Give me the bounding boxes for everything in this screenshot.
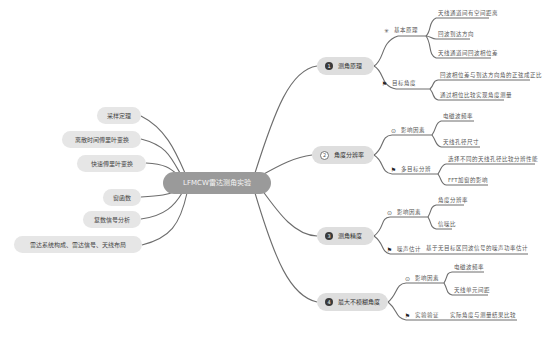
- subtopic-label: 影响因素: [397, 208, 421, 216]
- asterisk-icon: ✳: [383, 27, 390, 34]
- leaf-item[interactable]: 实际角度与测量结果比较: [450, 311, 516, 320]
- leaf-item[interactable]: 信噪比: [438, 220, 456, 229]
- flag-icon: ⚑: [381, 80, 388, 87]
- mind-map-canvas: LFMCW雷达测角实验 采样定理 离散时间傅里叶变换 快速傅里叶变换 窗函数 复…: [0, 0, 545, 337]
- info-circle-icon: ⊙: [390, 127, 397, 134]
- subtopic-label: 多目标分辨: [401, 165, 431, 173]
- subtopic-label: 目标角度: [392, 79, 416, 87]
- subtopic-basic-principle[interactable]: ✳ 基本原理: [383, 25, 418, 35]
- leaf-item[interactable]: 天线通道间有空间距离: [438, 9, 498, 18]
- subtopic-label: 影响因素: [401, 126, 425, 134]
- subtopic-label: 基本原理: [394, 26, 418, 34]
- topic-max-unambiguous-angle[interactable]: 4 最大不模糊角度: [317, 293, 388, 311]
- subtopic-influencing-factors[interactable]: ⊙ 影响因素: [390, 125, 425, 135]
- leaf-item[interactable]: 选择不同的天线孔径比较分辨性能: [448, 155, 538, 164]
- leaf-item[interactable]: 天线孔径尺寸: [443, 138, 479, 147]
- leaf-item[interactable]: 电磁波频率: [454, 263, 484, 272]
- topic-label: 测角精度: [338, 227, 362, 245]
- number-badge: 3: [325, 232, 333, 240]
- root-topic-label: LFMCW雷达测角实验: [183, 179, 251, 187]
- topic-angle-measurement-principle[interactable]: 1 测角原理: [317, 57, 374, 75]
- left-topic-sampling-theorem[interactable]: 采样定理: [97, 107, 141, 124]
- subtopic-label: 影响因素: [415, 274, 439, 282]
- left-topic-complex-signal[interactable]: 复数信号分析: [83, 211, 141, 228]
- number-badge: 1: [325, 62, 333, 70]
- subtopic-label: 噪声估计: [397, 245, 421, 253]
- subtopic-multi-target-resolution[interactable]: ⚑ 多目标分辨: [390, 164, 431, 174]
- subtopic-target-angle[interactable]: ⚑ 目标角度: [381, 78, 416, 88]
- subtopic-influencing-factors[interactable]: ⊙ 影响因素: [386, 207, 421, 217]
- left-topic-label: 快速傅里叶变换: [91, 160, 133, 167]
- leaf-item[interactable]: FFT加窗的影响: [448, 176, 488, 185]
- leaf-item[interactable]: 回波相位差与到达方向角的正弦成正比: [440, 71, 542, 80]
- left-topic-label: 窗函数: [113, 194, 131, 201]
- subtopic-noise-estimation[interactable]: ⚑ 噪声估计: [386, 244, 421, 254]
- left-topic-label: 采样定理: [107, 112, 131, 119]
- flag-icon: ⚑: [386, 246, 393, 253]
- left-topic-window-function[interactable]: 窗函数: [103, 189, 141, 206]
- leaf-item[interactable]: 电磁波频率: [443, 112, 473, 121]
- leaf-item[interactable]: 天线单元间距: [454, 286, 490, 295]
- topic-label: 角度分辨率: [334, 146, 364, 164]
- topic-label: 测角原理: [338, 57, 362, 75]
- flag-icon: ⚑: [404, 312, 411, 319]
- leaf-item[interactable]: 天线通道间回波相位差: [438, 49, 498, 58]
- number-badge: 2: [320, 151, 329, 160]
- subtopic-influencing-factors[interactable]: ⊙ 影响因素: [404, 273, 439, 283]
- left-topic-fft[interactable]: 快速傅里叶变换: [77, 155, 146, 172]
- info-circle-icon: ⊙: [404, 275, 411, 282]
- topic-label: 最大不模糊角度: [338, 293, 380, 311]
- leaf-item[interactable]: 基于无目标区回波信号的噪声功率估计: [426, 244, 528, 253]
- number-badge: 4: [325, 298, 333, 306]
- root-topic[interactable]: LFMCW雷达测角实验: [163, 172, 271, 194]
- left-topic-dtft[interactable]: 离散时间傅里叶变换: [62, 131, 141, 148]
- info-circle-icon: ⊙: [386, 209, 393, 216]
- left-topic-radar-system[interactable]: 雷达系统构成、雷达信号、天线布局: [14, 236, 142, 253]
- leaf-item[interactable]: 通过相位比较实现角度测量: [440, 91, 512, 100]
- left-topic-label: 离散时间傅里叶变换: [75, 136, 129, 143]
- left-topic-label: 复数信号分析: [94, 216, 130, 223]
- left-topic-label: 雷达系统构成、雷达信号、天线布局: [30, 241, 126, 248]
- topic-angular-resolution[interactable]: 2 角度分辨率: [312, 146, 374, 164]
- leaf-item[interactable]: 角度分辨率: [438, 196, 468, 205]
- subtopic-experimental-verification[interactable]: ⚑ 实验验证: [404, 310, 439, 320]
- flag-icon: ⚑: [390, 166, 397, 173]
- subtopic-label: 实验验证: [415, 311, 439, 319]
- leaf-item[interactable]: 回波到达方向: [438, 30, 474, 39]
- topic-angle-accuracy[interactable]: 3 测角精度: [317, 227, 374, 245]
